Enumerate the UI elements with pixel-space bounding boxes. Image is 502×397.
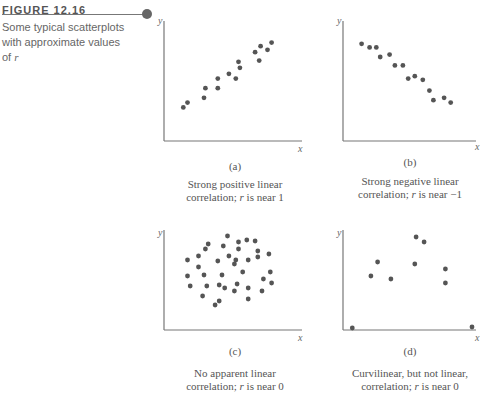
data-point-d: [443, 267, 448, 272]
data-point-d: [443, 281, 448, 286]
subplot-b-label: (b): [375, 156, 445, 168]
data-point-a: [269, 40, 274, 45]
data-point-c: [203, 247, 208, 252]
data-point-a: [181, 105, 186, 110]
data-point-c: [244, 238, 249, 243]
data-point-a: [215, 86, 220, 91]
subplot-b-caption-line2: correlation; r is near −1: [335, 188, 485, 201]
data-point-a: [265, 47, 270, 52]
data-point-c: [255, 249, 260, 254]
y-axis-label-b: y: [336, 15, 342, 26]
data-point-d: [422, 240, 427, 245]
data-point-d: [412, 262, 417, 267]
subplot-a-caption-line1: Strong positive linear: [160, 178, 310, 191]
data-point-c: [200, 294, 205, 299]
data-point-c: [261, 277, 266, 282]
data-point-a: [257, 58, 262, 63]
data-point-c: [268, 270, 273, 275]
data-point-c: [185, 258, 190, 263]
data-point-a: [215, 76, 220, 81]
data-point-c: [246, 297, 251, 302]
data-point-c: [213, 303, 218, 308]
subplot-d-caption-line1: Curvilinear, but not linear,: [330, 367, 490, 380]
data-point-d: [369, 274, 374, 279]
data-point-d: [470, 325, 475, 330]
data-point-a: [202, 95, 207, 100]
data-point-a: [258, 44, 263, 49]
data-point-c: [269, 281, 274, 286]
data-point-c: [255, 255, 260, 260]
subplot-c-label: (c): [200, 345, 270, 357]
y-axis-label-a: y: [157, 15, 163, 26]
data-point-c: [225, 234, 230, 239]
subplot-c-caption-line1: No apparent linear: [160, 367, 310, 380]
y-axis-label-d: y: [336, 227, 342, 238]
data-point-c: [246, 258, 251, 263]
data-point-b: [359, 41, 364, 46]
data-point-c: [204, 284, 209, 289]
subplot-c-caption-line2: correlation; r is near 0: [160, 380, 310, 393]
data-point-b: [401, 63, 406, 68]
data-point-a: [236, 59, 241, 64]
data-point-c: [240, 270, 245, 275]
y-axis-label-c: y: [157, 227, 163, 238]
data-point-c: [232, 289, 237, 294]
data-point-c: [260, 289, 265, 294]
data-point-c: [227, 254, 232, 259]
data-point-b: [378, 55, 383, 60]
data-point-c: [222, 286, 227, 291]
data-point-c: [267, 252, 272, 257]
data-point-c: [188, 284, 193, 289]
data-point-d: [389, 277, 394, 282]
data-point-c: [236, 247, 241, 252]
data-point-c: [196, 265, 201, 270]
data-point-b: [448, 100, 453, 105]
subplot-c-caption: No apparent linear correlation; r is nea…: [160, 367, 310, 393]
data-point-b: [412, 74, 417, 79]
data-point-c: [220, 273, 225, 278]
data-point-d: [414, 235, 419, 240]
data-point-a: [253, 50, 258, 55]
data-point-c: [196, 254, 201, 259]
data-point-b: [420, 77, 425, 82]
subplot-b-caption: Strong negative linear correlation; r is…: [335, 175, 485, 201]
data-point-a: [203, 86, 208, 91]
data-point-a: [238, 65, 243, 70]
data-point-b: [374, 45, 379, 50]
data-point-b: [393, 63, 398, 68]
subplot-d-caption-line2: correlation; r is near 0: [330, 380, 490, 393]
subplot-d-label: (d): [375, 345, 445, 357]
data-point-c: [217, 283, 222, 288]
data-point-c: [185, 274, 190, 279]
data-point-d: [375, 260, 380, 265]
subplot-a-caption: Strong positive linear correlation; r is…: [160, 178, 310, 204]
data-point-c: [236, 240, 241, 245]
subplot-d-caption: Curvilinear, but not linear, correlation…: [330, 367, 490, 393]
data-point-c: [215, 259, 220, 264]
x-axis-label-d: x: [474, 332, 480, 343]
data-point-c: [253, 239, 258, 244]
subplot-a-caption-line2: correlation; r is near 1: [160, 191, 310, 204]
subplot-a-label: (a): [200, 160, 270, 172]
data-point-c: [206, 242, 211, 247]
data-point-a: [227, 71, 232, 76]
x-axis-label-a: x: [297, 143, 303, 154]
data-point-b: [387, 52, 392, 57]
data-point-b: [427, 88, 432, 93]
data-point-c: [217, 299, 222, 304]
data-point-b: [431, 98, 436, 103]
data-point-b: [442, 95, 447, 100]
data-point-d: [350, 326, 355, 331]
data-point-c: [246, 286, 251, 291]
data-point-c: [202, 273, 207, 278]
data-point-b: [367, 45, 372, 50]
x-axis-label-b: x: [474, 141, 480, 152]
data-point-c: [232, 262, 237, 267]
x-axis-label-c: x: [297, 332, 303, 343]
data-point-c: [235, 282, 240, 287]
data-point-a: [185, 100, 190, 105]
data-point-a: [233, 76, 238, 81]
data-point-c: [221, 244, 226, 249]
data-point-b: [406, 76, 411, 81]
subplot-b-caption-line1: Strong negative linear: [335, 175, 485, 188]
